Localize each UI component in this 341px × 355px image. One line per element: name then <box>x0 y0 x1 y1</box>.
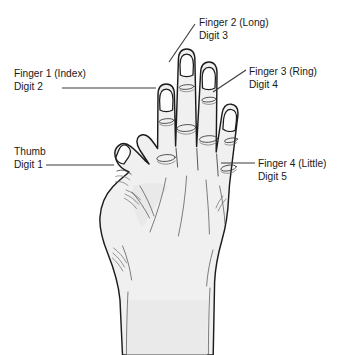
label-finger-3: Finger 3 (Ring) Digit 4 <box>249 66 320 90</box>
label-finger-2-line2: Digit 3 <box>199 30 228 41</box>
label-finger-4-line1: Finger 4 (Little) <box>258 158 327 169</box>
nail-ring-finger <box>202 67 215 89</box>
label-thumb: Thumb Digit 1 <box>14 146 49 170</box>
hand-illustration: Finger 2 (Long) Digit 3 Finger 1 (Index)… <box>0 0 341 355</box>
wrist-shading <box>126 300 208 355</box>
nail-little-finger <box>223 109 237 131</box>
label-finger-2: Finger 2 (Long) Digit 3 <box>199 17 272 41</box>
label-finger-3-line2: Digit 4 <box>249 79 278 90</box>
label-finger-4: Finger 4 (Little) Digit 5 <box>258 158 329 182</box>
leader-finger-3 <box>213 70 246 92</box>
label-thumb-line1: Thumb <box>14 146 46 157</box>
nail-index-finger <box>160 89 173 111</box>
label-thumb-line2: Digit 1 <box>14 159 43 170</box>
label-finger-4-line2: Digit 5 <box>258 171 287 182</box>
label-finger-2-line1: Finger 2 (Long) <box>199 17 269 28</box>
label-finger-1-line2: Digit 2 <box>14 81 43 92</box>
label-finger-1-line1: Finger 1 (Index) <box>14 68 86 79</box>
label-finger-3-line1: Finger 3 (Ring) <box>249 66 317 77</box>
nail-middle-finger <box>180 54 193 76</box>
hand-anatomy-diagram: Finger 2 (Long) Digit 3 Finger 1 (Index)… <box>0 0 341 355</box>
